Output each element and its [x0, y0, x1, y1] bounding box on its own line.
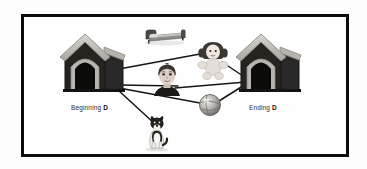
label-ending-text: Ending: [249, 104, 272, 111]
label-ending-letter: D: [272, 104, 277, 111]
ball-icon: [198, 93, 222, 117]
label-beginning-d: Beginning D: [71, 104, 108, 111]
doghouse-icon-beginning: [55, 29, 129, 97]
doghouse-icon-ending: [231, 29, 305, 97]
dog-icon: [140, 112, 174, 152]
label-beginning-text: Beginning: [71, 104, 103, 111]
doll-icon: [196, 40, 230, 80]
child-face-icon: [152, 62, 182, 96]
label-beginning-letter: D: [103, 104, 108, 111]
figure-container: Beginning D Ending D: [0, 0, 367, 169]
label-ending-d: Ending D: [249, 104, 277, 111]
bed-icon: [143, 27, 187, 47]
